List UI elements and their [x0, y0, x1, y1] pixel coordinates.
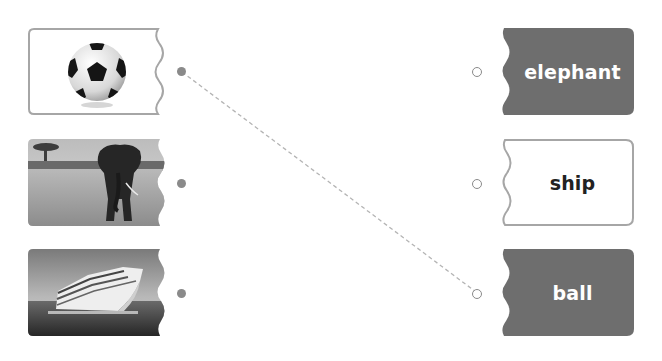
word-label: ball	[511, 249, 634, 336]
match-dot-left-1[interactable]	[177, 67, 186, 76]
match-dot-left-2[interactable]	[177, 179, 186, 188]
word-label: elephant	[511, 28, 634, 115]
match-dot-right-3[interactable]	[472, 289, 482, 299]
word-card-elephant[interactable]: elephant	[501, 28, 634, 115]
word-label: ship	[511, 139, 634, 226]
soccer-ball-icon	[28, 28, 168, 115]
match-dot-left-3[interactable]	[177, 289, 186, 298]
picture-card-ship[interactable]	[28, 249, 168, 336]
match-dot-right-1[interactable]	[472, 67, 482, 77]
match-dot-right-2[interactable]	[472, 179, 482, 189]
cruise-ship-icon	[28, 249, 168, 336]
word-card-ball[interactable]: ball	[501, 249, 634, 336]
word-card-ship[interactable]: ship	[501, 139, 634, 226]
elephant-icon	[28, 139, 168, 226]
picture-card-ball[interactable]	[28, 28, 168, 115]
picture-card-elephant[interactable]	[28, 139, 168, 226]
